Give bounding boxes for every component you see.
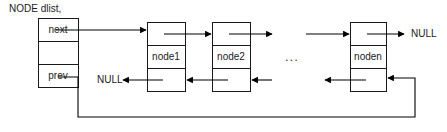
noden-data-label: noden — [350, 52, 386, 62]
diagram-title: NODE dlist, — [9, 4, 61, 14]
diagram-lines-layer — [0, 0, 447, 132]
null-right-label: NULL — [411, 29, 437, 39]
null-left-label: NULL — [97, 75, 123, 85]
head-cell-prev-label: prev — [38, 71, 78, 81]
ellipsis-label: ... — [285, 50, 299, 63]
diagram-canvas: NODE dlist, next prev node1 node2 noden … — [0, 0, 447, 132]
head-cell-middle-rect — [39, 42, 79, 65]
node1-data-label: node1 — [147, 52, 185, 62]
node2-data-label: node2 — [212, 52, 250, 62]
head-cell-next-label: next — [38, 25, 78, 35]
